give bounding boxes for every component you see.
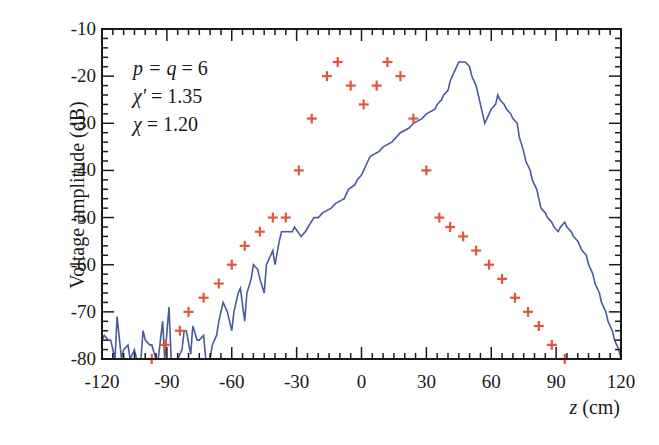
parameter-annotations: p = q = 6 χ' = 1.35 χ = 1.20 — [131, 57, 208, 136]
y-tick-label: -80 — [71, 348, 96, 369]
x-tick-label: 120 — [607, 371, 636, 392]
x-tick-label: 60 — [482, 371, 501, 392]
x-axis-label: z (cm) — [568, 396, 620, 419]
x-tick-label: -60 — [219, 371, 244, 392]
x-tick-label: 0 — [357, 371, 367, 392]
x-tick-label: 30 — [417, 371, 436, 392]
x-tick-label: -90 — [154, 371, 179, 392]
x-axis-label-unit: (cm) — [577, 396, 620, 419]
x-tick-label: 90 — [547, 371, 566, 392]
x-axis-label-var: z — [568, 396, 577, 418]
y-tick-label: -10 — [71, 18, 96, 39]
y-tick-label: -70 — [71, 301, 96, 322]
x-tick-label: -30 — [284, 371, 309, 392]
x-tick-label: -120 — [85, 371, 120, 392]
y-axis-label: Voltage amplitude (dB) — [66, 101, 89, 288]
chart: -120-90-60-300306090120 -10-20-30-40-50-… — [0, 0, 659, 445]
annotation-pq: p = q = 6 — [131, 57, 208, 80]
annotation-chi: χ = 1.20 — [131, 113, 198, 136]
x-axis-tick-labels: -120-90-60-300306090120 — [85, 371, 636, 392]
annotation-chi-prime: χ' = 1.35 — [131, 85, 202, 108]
y-tick-label: -20 — [71, 65, 96, 86]
